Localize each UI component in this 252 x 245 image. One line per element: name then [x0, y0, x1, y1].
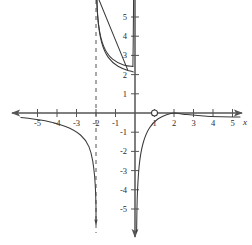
x-tick-label-2: 2 — [172, 118, 176, 128]
y-tick-label-neg1: -1 — [120, 127, 127, 137]
y-tick-label-2: 2 — [123, 70, 127, 80]
x-tick-label-neg1: -1 — [112, 118, 119, 128]
y-tick-label-5: 5 — [123, 12, 127, 22]
x-tick-label-3: 3 — [191, 118, 195, 128]
graph-figure: -5 -4 -3 -2 -1 1 2 3 4 5 x — [0, 0, 252, 245]
y-tick-label-neg3: -3 — [120, 166, 127, 176]
coordinate-plane: -5 -4 -3 -2 -1 1 2 3 4 5 x — [0, 0, 252, 245]
y-tick-label-neg4: -4 — [120, 185, 128, 195]
y-tick-label-1: 1 — [123, 89, 127, 99]
y-tick-label-neg2: -2 — [120, 146, 127, 156]
open-circle-hole-icon — [152, 110, 158, 116]
x-tick-label-5: 5 — [230, 118, 234, 128]
x-axis-label: x — [242, 117, 247, 127]
x-tick-label-neg3: -3 — [73, 118, 80, 128]
curve-middle-branch-right-arm — [133, 0, 134, 67]
y-tick-label-neg5: -5 — [120, 204, 127, 214]
